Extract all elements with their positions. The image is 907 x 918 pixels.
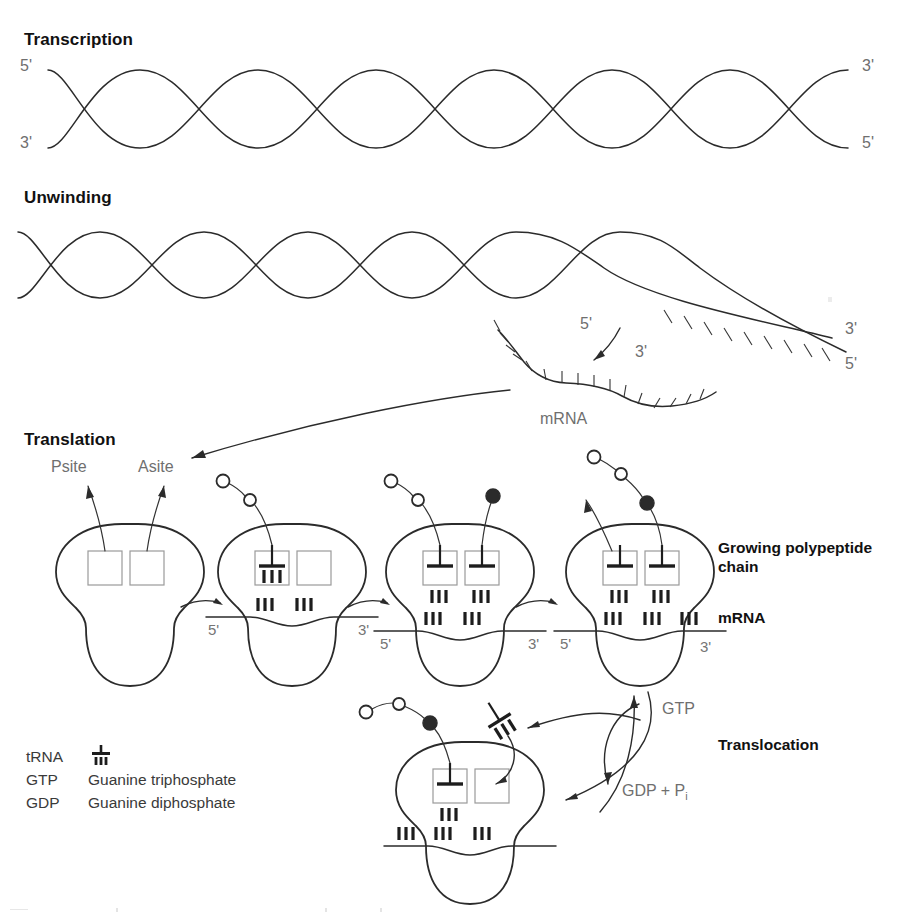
ribosome-4-three-prime: 3' <box>700 638 711 656</box>
legend-row-trna: tRNA <box>26 745 236 768</box>
gdp-label: GDP + Pi <box>622 782 688 803</box>
mrna-five-prime-label: 5' <box>580 315 592 334</box>
amino-acid-open-4b <box>615 468 627 480</box>
trna-supply-arrow <box>528 713 640 728</box>
ribosome-4-five-prime: 5' <box>560 635 571 653</box>
legend-value-trna <box>88 744 236 770</box>
ribosome-step-3 <box>374 475 546 687</box>
mrna-three-prime-label: 3' <box>635 343 647 362</box>
amino-acid-filled-4 <box>640 496 654 510</box>
amino-acid-open-3b <box>412 494 424 506</box>
amino-acid-open-2a <box>217 475 230 488</box>
transcription-helix <box>48 70 848 148</box>
ribosome-step-2 <box>206 475 378 687</box>
unwinding-heading: Unwinding <box>24 188 112 208</box>
legend-row-gtp: GTP Guanine triphosphate <box>26 768 236 791</box>
amino-acid-filled-5 <box>423 716 437 730</box>
mrna-to-translation-arrow <box>192 390 510 458</box>
gtp-label: GTP <box>662 700 695 719</box>
amino-acid-filled-3 <box>486 489 500 503</box>
trna-icon <box>88 744 114 766</box>
scan-artifact-1 <box>10 909 28 910</box>
amino-acid-open-2b <box>244 494 256 506</box>
open-strand-bottom-label: 5' <box>845 355 857 374</box>
translocation-heading: Translocation <box>718 735 819 754</box>
amino-acid-open-3a <box>385 475 398 488</box>
mrna-label: mRNA <box>540 410 587 429</box>
p-site-label: Psite <box>51 458 87 477</box>
legend-key-gtp: GTP <box>26 771 88 789</box>
transcription-right-top-label: 3' <box>862 57 874 76</box>
legend-key-trna: tRNA <box>26 748 88 766</box>
transcription-left-top-label: 5' <box>20 57 32 76</box>
scan-artifact-3 <box>325 908 327 912</box>
growing-polypeptide-line1: Growing polypeptide <box>718 539 872 556</box>
open-strand-top-label: 3' <box>845 320 857 339</box>
incoming-trna-icon <box>477 696 519 742</box>
legend-value-gdp: Guanine diphosphate <box>88 794 236 812</box>
scan-artifact-4 <box>380 908 382 912</box>
a-site-label: Asite <box>138 458 174 477</box>
amino-acid-open-5b <box>393 698 405 710</box>
legend-key-gdp: GDP <box>26 794 88 812</box>
transcription-left-bottom-label: 3' <box>20 134 32 153</box>
legend-value-gtp: Guanine triphosphate <box>88 771 236 789</box>
scan-artifact-5 <box>828 297 832 302</box>
growing-polypeptide-line2: chain <box>718 558 758 575</box>
growing-polypeptide-label: Growing polypeptidechain <box>718 538 903 577</box>
ribosome-translocation <box>360 698 557 904</box>
amino-acid-open-5a <box>360 706 373 719</box>
ribosome-3-three-prime: 3' <box>528 635 539 653</box>
transcription-direction-arrow <box>594 328 620 360</box>
diagram-canvas: Transcription 5' 3' 3' 5' Unwinding 3' 5… <box>0 0 907 918</box>
ribosome-2-five-prime: 5' <box>208 621 219 639</box>
legend: tRNA GTP Guanine triphosphate GDP Guanin… <box>26 745 236 814</box>
gdp-text: GDP + P <box>622 782 685 799</box>
translation-mrna-label: mRNA <box>718 608 765 627</box>
ribosome-3-five-prime: 5' <box>380 635 391 653</box>
ribosome-2-three-prime: 3' <box>358 621 369 639</box>
amino-acid-open-4a <box>588 451 601 464</box>
unwinding-helix <box>18 232 846 352</box>
transcription-heading: Transcription <box>24 30 133 50</box>
ribosome-step-1 <box>56 486 204 686</box>
legend-row-gdp: GDP Guanine diphosphate <box>26 791 236 814</box>
transcription-right-bottom-label: 5' <box>862 134 874 153</box>
gdp-subscript: i <box>685 790 687 802</box>
translation-heading: Translation <box>24 430 116 450</box>
scan-artifact-2 <box>116 908 118 912</box>
